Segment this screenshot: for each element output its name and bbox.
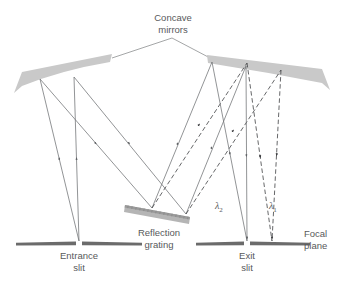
focal-plane-label: Focal plane (304, 228, 344, 251)
beam-right-mirror-to-focal-plane-lambda1-arrows (260, 153, 277, 238)
concave-mirrors-leader-lines (112, 38, 212, 59)
reflection-grating (124, 205, 190, 224)
lambda-2-subscript: 2 (219, 206, 223, 214)
beam-right-mirror-to-focal-plane-lambda2 (212, 62, 247, 241)
beam-grating-to-right-mirror-lambda2 (152, 62, 246, 214)
left-concave-mirror (14, 54, 112, 93)
reflection-grating-label: Reflection grating (120, 227, 198, 250)
right-concave-mirror (207, 55, 330, 90)
concave-mirrors-label: Concave mirrors (134, 12, 212, 35)
beam-grating-to-right-mirror-lambda2-arrows (177, 143, 212, 149)
exit-slit-label: Exit slit (208, 250, 286, 273)
entrance-slit-label: Entrance slit (40, 250, 118, 273)
lambda-1-label: λ1 (269, 200, 277, 214)
beam-left-mirror-to-grating (40, 77, 186, 214)
beam-grating-to-right-mirror-lambda1-arrows (198, 124, 233, 132)
lambda-2-label: λ2 (215, 200, 223, 214)
beam-right-mirror-to-focal-plane-lambda1 (247, 63, 281, 241)
beam-left-mirror-to-grating-arrows (95, 142, 130, 144)
exit-slit (196, 242, 310, 246)
beam-entrance-to-left-mirror-arrows (59, 158, 76, 160)
optical-diagram: Concave mirrors Reflection grating Entra… (0, 0, 344, 285)
lambda-1-subscript: 1 (273, 206, 277, 214)
